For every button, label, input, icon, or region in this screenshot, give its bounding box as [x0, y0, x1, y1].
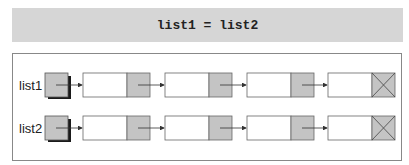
list1-row: list1 [19, 73, 395, 99]
list1-label: list1 [19, 78, 42, 93]
list2-label: list2 [19, 121, 42, 136]
list2-row: list2 [19, 116, 395, 142]
node-data [83, 116, 127, 140]
node-data [328, 73, 372, 97]
linked-lists-diagram: list1 list2 [0, 0, 409, 165]
node-data [165, 116, 209, 140]
node-data [83, 73, 127, 97]
node-data [165, 73, 209, 97]
node-data [247, 73, 291, 97]
node-data [328, 116, 372, 140]
node-data [247, 116, 291, 140]
